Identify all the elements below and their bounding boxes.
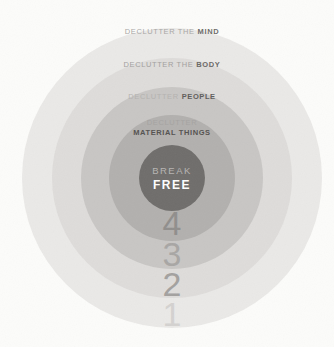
ring-label-people-light: DECLUTTER [128,92,178,101]
ring-label-body-bold: BODY [196,60,220,69]
ring-label-body-light: DECLUTTER THE [124,60,194,69]
ring-label-material: DECLUTTER MATERIAL THINGS [22,118,322,138]
center-label-break: BREAK [152,165,192,176]
center-label: BREAK FREE [139,145,205,211]
ring-label-mind: DECLUTTER THEMIND [22,27,322,37]
ring-label-people-bold: PEOPLE [182,92,216,101]
ring-label-mind-bold: MIND [198,27,220,36]
ring-label-material-bold: MATERIAL THINGS [22,128,322,138]
ring-label-people: DECLUTTERPEOPLE [22,92,322,102]
ring-label-mind-light: DECLUTTER THE [125,27,195,36]
ring-label-material-light: DECLUTTER [22,118,322,128]
declutter-diagram: DECLUTTER THEMIND DECLUTTER THEBODY DECL… [0,0,334,347]
center-label-free: FREE [153,178,191,192]
ring-number-1: 1 [22,297,322,331]
ring-label-body: DECLUTTER THEBODY [22,60,322,70]
